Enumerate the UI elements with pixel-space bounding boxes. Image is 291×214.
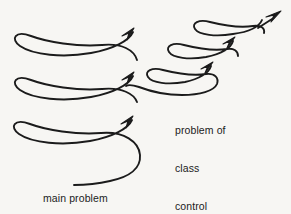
label-class-control-line-1: problem of [175, 124, 226, 137]
main-problem-loop-middle [15, 76, 137, 102]
class-control-loop-bottom [126, 66, 218, 95]
class-control-loop-middle [168, 41, 238, 58]
label-class-control: problem of class control [175, 99, 226, 214]
main-problem-loop-bottom [14, 120, 140, 185]
diagram-canvas: main problem problem of class control [0, 0, 291, 214]
ink-strokes [14, 11, 281, 185]
spiral-diagram-svg [0, 0, 291, 214]
class-control-loop-top [194, 20, 264, 35]
main-problem-loop-top [15, 32, 137, 60]
label-class-control-line-3: control [175, 200, 226, 213]
label-class-control-line-2: class [175, 162, 226, 175]
label-main-problem: main problem [43, 192, 108, 205]
